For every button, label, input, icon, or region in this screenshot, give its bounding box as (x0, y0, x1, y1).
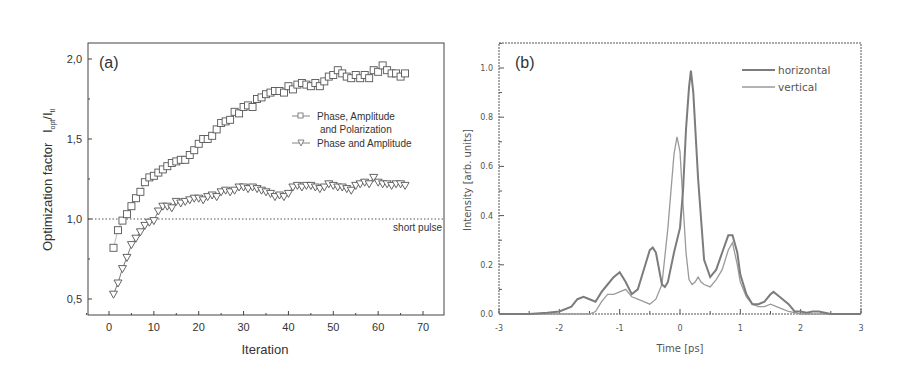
x-axis-a: 010203040506070 (87, 311, 430, 333)
y-axis-title-a: Optimization factor Iopt/Itl (40, 109, 57, 252)
square-marker (236, 110, 243, 117)
triangle-marker (154, 208, 162, 215)
y-tick-label: 2,0 (67, 53, 82, 65)
triangle-marker (401, 182, 409, 189)
x-tick-label: 30 (237, 321, 249, 333)
x-tick-label: 2 (798, 324, 803, 333)
chart-b-canvas: -3-2-10123 0.00.20.40.60.81.0 (b) horizo… (450, 0, 901, 372)
x-tick-label: -3 (495, 324, 503, 333)
square-marker (280, 89, 287, 96)
x-axis-title-a: Iteration (242, 342, 289, 357)
square-marker (209, 132, 216, 139)
x-tick-label: 70 (417, 321, 429, 333)
square-marker (249, 104, 256, 111)
x-tick-label: 60 (372, 321, 384, 333)
square-marker (128, 203, 135, 210)
x-tick-label: 0 (106, 321, 112, 333)
y-tick-label: 0.4 (480, 212, 493, 221)
x-tick-label: 0 (677, 324, 682, 333)
triangle-marker (118, 266, 126, 273)
legend-a: Phase, Amplitude and Polarization Phase … (292, 111, 412, 149)
x-tick-label: 3 (858, 324, 863, 333)
x-tick-label: 1 (738, 324, 743, 333)
x-tick-label: 20 (193, 321, 205, 333)
triangle-marker (127, 242, 135, 249)
legend-label-series-1-line1: Phase, Amplitude (317, 111, 395, 122)
square-marker (375, 68, 382, 75)
panel-label-a: (a) (99, 54, 119, 71)
chart-a-canvas: 010203040506070 0,51,01,52,0 short pulse… (0, 0, 450, 372)
y-tick-label: 1,0 (67, 213, 82, 225)
y-tick-label: 0.0 (480, 310, 493, 319)
square-marker (227, 116, 234, 123)
legend-b: horizontal vertical (742, 64, 830, 93)
square-marker (119, 217, 126, 224)
square-marker (123, 211, 130, 218)
square-marker (137, 188, 144, 195)
x-tick-label: 50 (327, 321, 339, 333)
svg-text:Optimization factor Io: Optimization factor Iopt/Itl (40, 109, 57, 252)
triangle-marker (365, 181, 373, 188)
x-tick-label: -1 (616, 324, 624, 333)
legend-label-horizontal: horizontal (778, 64, 830, 76)
triangle-marker (114, 280, 122, 287)
y-tick-label: 1.0 (480, 64, 493, 73)
y-tick-label: 0.8 (480, 113, 493, 122)
x-tick-label: 10 (148, 321, 160, 333)
triangle-marker (168, 205, 176, 212)
triangle-marker (347, 187, 355, 194)
short-pulse-label: short pulse (393, 222, 442, 233)
triangle-marker (213, 194, 221, 201)
y-tick-label: 0,5 (67, 293, 82, 305)
legend-square-marker-icon (298, 113, 303, 118)
y-tick-label: 0.2 (480, 261, 493, 270)
legend-label-series-2: Phase and Amplitude (317, 138, 412, 149)
chart-panel-a: 010203040506070 0,51,01,52,0 short pulse… (0, 0, 450, 372)
x-axis-title-b: Time [ps] (655, 343, 703, 354)
x-tick-label: 40 (282, 321, 294, 333)
y-tick-label: 1,5 (67, 133, 82, 145)
x-tick-label: -2 (555, 324, 563, 333)
square-marker (402, 70, 409, 77)
line-horizontal (499, 71, 861, 315)
triangle-marker (109, 291, 117, 298)
square-marker (114, 227, 121, 234)
series-phase-amplitude (109, 174, 409, 298)
triangle-marker (123, 254, 131, 261)
triangle-marker (132, 235, 140, 242)
panel-label-b: (b) (515, 54, 535, 71)
y-tick-label: 0.6 (480, 162, 493, 171)
chart-panel-b: -3-2-10123 0.00.20.40.60.81.0 (b) horizo… (450, 0, 901, 372)
y-axis-title-b: Intensity [arb. units] (462, 129, 473, 231)
square-marker (110, 244, 117, 251)
legend-label-series-1-line2: and Polarization (320, 124, 392, 135)
y-axis-b: 0.00.20.40.60.81.0 (480, 43, 504, 319)
square-marker (366, 75, 373, 82)
legend-label-vertical: vertical (778, 81, 817, 93)
